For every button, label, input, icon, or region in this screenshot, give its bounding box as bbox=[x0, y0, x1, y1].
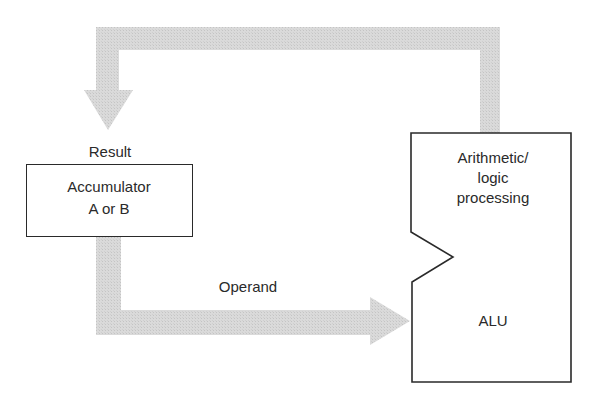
accumulator-label-line1: Accumulator bbox=[27, 177, 191, 196]
alu-label-line3: processing bbox=[420, 188, 566, 207]
operand-label: Operand bbox=[200, 277, 296, 296]
accumulator-label-line2: A or B bbox=[27, 199, 191, 218]
result-feedback-arrow bbox=[84, 27, 500, 133]
alu-label-line1: Arithmetic/ bbox=[420, 148, 566, 167]
alu-name-label: ALU bbox=[460, 311, 526, 330]
accumulator-block: Accumulator A or B bbox=[26, 164, 193, 237]
alu-label-line2: logic bbox=[420, 168, 566, 187]
result-label: Result bbox=[70, 142, 150, 161]
